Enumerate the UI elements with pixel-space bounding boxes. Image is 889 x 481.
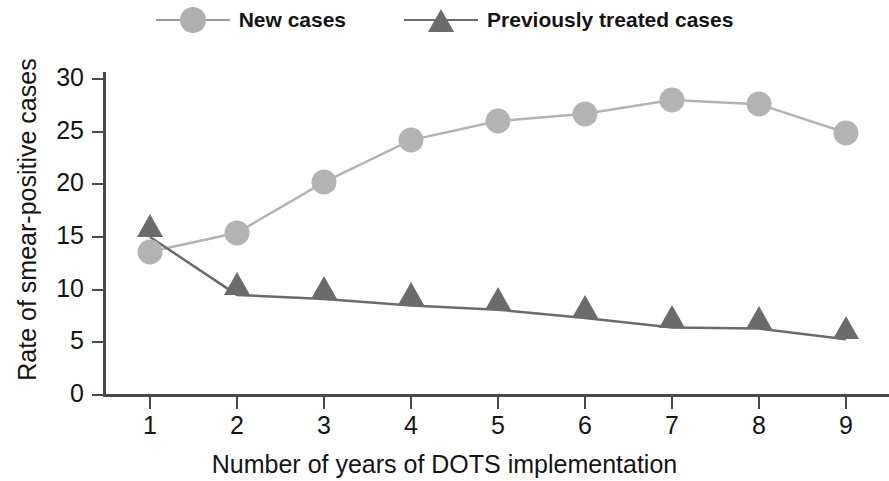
circle-marker-icon	[156, 7, 230, 33]
y-tick-label: 15	[40, 221, 84, 250]
legend-item-new-cases: New cases	[156, 7, 346, 33]
x-tick-label: 1	[130, 411, 170, 440]
x-tick	[845, 396, 847, 409]
x-tick-label: 4	[391, 411, 431, 440]
data-point-marker	[398, 282, 424, 305]
y-tick-label: 20	[40, 168, 84, 197]
y-axis-title: Rate of smear-positive cases	[13, 30, 42, 410]
x-tick-label: 9	[826, 411, 866, 440]
data-point-marker	[486, 109, 511, 134]
y-tick	[92, 78, 103, 80]
x-tick	[758, 396, 760, 409]
data-point-marker	[399, 128, 424, 153]
data-point-marker	[747, 92, 772, 117]
y-tick-label: 10	[40, 274, 84, 303]
x-tick	[584, 396, 586, 409]
legend-label-new-cases: New cases	[239, 8, 346, 32]
y-tick	[92, 289, 103, 291]
x-tick-label: 8	[739, 411, 779, 440]
legend-item-previously-treated-cases: Previously treated cases	[404, 7, 733, 33]
x-axis-line	[103, 394, 889, 397]
data-point-marker	[660, 88, 685, 113]
x-tick-label: 2	[217, 411, 257, 440]
data-point-marker	[573, 101, 598, 126]
data-point-marker	[485, 287, 511, 310]
data-point-marker	[225, 220, 250, 245]
x-tick	[671, 396, 673, 409]
series-lines	[0, 0, 889, 481]
data-point-marker	[746, 306, 772, 329]
x-tick	[149, 396, 151, 409]
x-tick	[236, 396, 238, 409]
x-tick	[497, 396, 499, 409]
data-point-marker	[312, 170, 337, 195]
data-point-marker	[138, 239, 163, 264]
chart-figure: New cases Previously treated cases 05101…	[0, 0, 889, 481]
y-tick-label: 25	[40, 116, 84, 145]
y-tick-label: 5	[40, 326, 84, 355]
y-axis-line	[103, 72, 106, 397]
triangle-marker-icon	[404, 7, 478, 33]
y-tick	[92, 131, 103, 133]
x-tick-label: 5	[478, 411, 518, 440]
legend-label-previously-treated-cases: Previously treated cases	[487, 8, 733, 32]
data-point-marker	[224, 272, 250, 295]
data-point-marker	[137, 214, 163, 237]
data-point-marker	[311, 276, 337, 299]
y-tick-label: 0	[40, 379, 84, 408]
x-tick	[323, 396, 325, 409]
y-tick-label: 30	[40, 63, 84, 92]
x-tick-label: 7	[652, 411, 692, 440]
y-tick	[92, 236, 103, 238]
y-tick	[92, 341, 103, 343]
data-point-marker	[572, 295, 598, 318]
chart-legend: New cases Previously treated cases	[0, 0, 889, 40]
y-tick	[92, 183, 103, 185]
data-point-marker	[659, 305, 685, 328]
x-tick	[410, 396, 412, 409]
data-point-marker	[833, 316, 859, 339]
x-tick-label: 3	[304, 411, 344, 440]
x-tick-label: 6	[565, 411, 605, 440]
x-axis-title: Number of years of DOTS implementation	[0, 450, 889, 479]
y-tick	[92, 394, 103, 396]
data-point-marker	[834, 120, 859, 145]
